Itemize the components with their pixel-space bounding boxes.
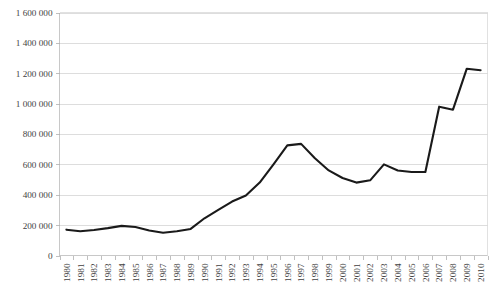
y-axis-tick-label: 200 000: [23, 221, 53, 231]
x-axis-tick-label: 1996: [283, 263, 293, 282]
x-axis-tick-label: 1986: [145, 263, 155, 282]
data-series: [66, 69, 480, 233]
y-axis-tick-label: 400 000: [23, 190, 53, 200]
x-axis-tick-label: 2003: [379, 263, 389, 282]
x-axis-tick-label: 1987: [158, 263, 168, 282]
x-axis-tick-label: 2010: [476, 263, 486, 282]
y-axis-tick-label: 800 000: [23, 129, 53, 139]
series-line: [66, 69, 480, 233]
y-axis-tick-label: 600 000: [23, 160, 53, 170]
x-axis-labels: 1980198119821983198419851986198719881989…: [62, 263, 486, 282]
x-axis-tick-label: 2006: [421, 263, 431, 282]
y-axis-tick-label: 1 400 000: [16, 38, 53, 48]
x-axis-tick-label: 1983: [103, 263, 113, 282]
x-axis-tick-label: 2004: [393, 263, 403, 282]
x-axis-tick-label: 2007: [434, 263, 444, 282]
line-chart: 1 600 0001 400 0001 200 0001 000 000800 …: [0, 0, 489, 305]
chart-container: 1 600 0001 400 0001 200 0001 000 000800 …: [0, 0, 489, 305]
x-axis-tick-label: 1993: [241, 263, 251, 282]
x-axis-tick-label: 1997: [296, 263, 306, 282]
x-axis-tickmarks: [61, 256, 489, 260]
x-axis-tick-label: 1981: [76, 263, 86, 282]
y-axis-tick-label: 0: [48, 251, 53, 261]
plot-area-border: [60, 13, 488, 256]
x-axis-tick-label: 1999: [324, 263, 334, 282]
x-axis-tick-label: 1995: [269, 263, 279, 282]
x-axis-tick-label: 1985: [131, 263, 141, 282]
x-axis-tick-label: 2009: [462, 263, 472, 282]
x-axis-tick-label: 1990: [200, 263, 210, 282]
x-axis-tick-label: 1998: [310, 263, 320, 282]
y-axis-tick-label: 1 200 000: [16, 69, 53, 79]
x-axis-tick-label: 2005: [407, 263, 417, 282]
x-axis-tick-label: 1994: [255, 263, 265, 282]
x-axis-tick-label: 2002: [365, 263, 375, 282]
x-axis-tick-label: 1982: [89, 263, 99, 282]
y-axis-tick-label: 1 600 000: [16, 8, 53, 18]
x-axis-tick-label: 2000: [338, 263, 348, 282]
x-axis-tick-label: 1980: [62, 263, 72, 282]
x-axis-tick-label: 1992: [227, 263, 237, 282]
x-axis-tick-label: 1989: [186, 263, 196, 282]
y-axis-tick-label: 1 000 000: [16, 99, 53, 109]
x-axis-tick-label: 1984: [117, 263, 127, 282]
x-axis-tick-label: 1991: [214, 263, 224, 282]
x-axis-tick-label: 2001: [352, 263, 362, 282]
y-axis-labels: 1 600 0001 400 0001 200 0001 000 000800 …: [16, 8, 60, 261]
x-axis-tick-label: 2008: [448, 263, 458, 282]
x-axis-tick-label: 1988: [172, 263, 182, 282]
gridlines: [60, 14, 488, 226]
